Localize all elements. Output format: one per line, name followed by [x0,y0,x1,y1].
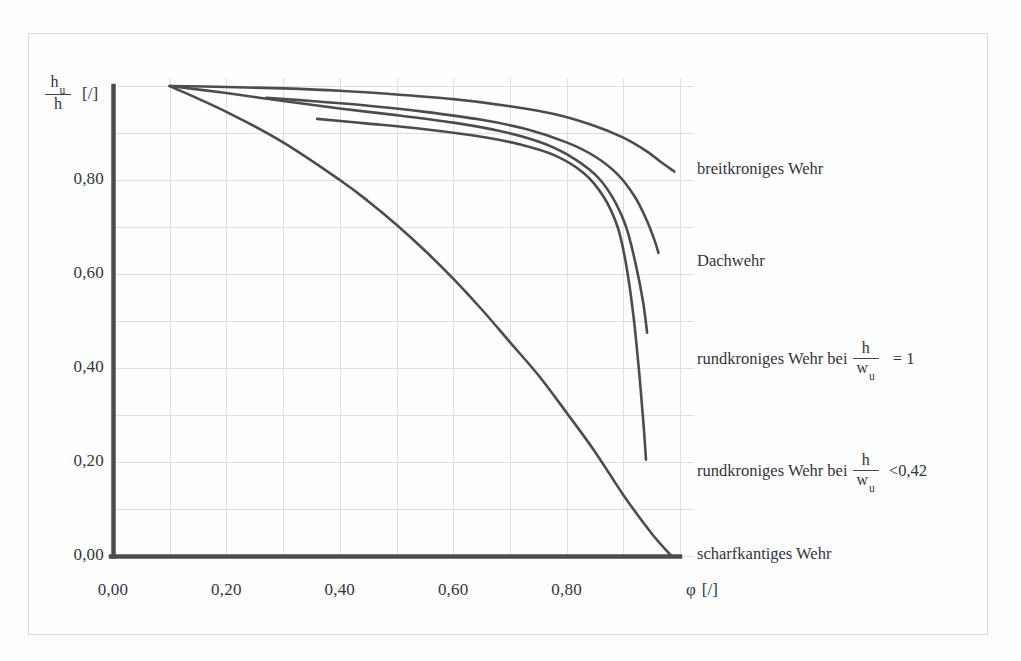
legend-fraction-h-wu: h wu [853,452,879,491]
x-axis-title: φ [/] [686,580,718,600]
legend-item-rundkroniges-wehr-1[interactable]: rundkroniges Wehr bei h wu = 1 [697,340,915,379]
chart-plot-area [0,0,1021,661]
legend-value: <0,42 [889,462,927,481]
y-axis-tick-label: 0,20 [44,451,104,471]
legend-item-breitkroniges-wehr[interactable]: breitkroniges Wehr [697,160,823,179]
fraction-denominator-subscript: u [868,370,875,382]
y-axis-title: hu h [/] [40,74,98,113]
y-axis-denominator: h [50,95,66,113]
legend-label-text: breitkroniges Wehr [697,160,823,179]
legend-label-text: rundkroniges Wehr bei [697,462,848,481]
x-axis-symbol: φ [686,580,696,600]
y-axis-tick-label: 0,80 [44,169,104,189]
x-axis-tick-label: 0,20 [191,580,261,600]
curve-rundkroniges-wehr-bei-h-w-u-1 [170,86,647,333]
fraction-denominator-subscript: u [868,482,875,494]
y-axis-tick-label: 0,60 [44,263,104,283]
figure-page: hu h [/] φ [/] 0,800,600,400,200,00 0,00… [0,0,1021,661]
x-axis-tick-label: 0,40 [305,580,375,600]
legend-label-text: Dachwehr [697,252,765,271]
fraction-numerator: h [858,452,874,470]
y-axis-unit: [/] [82,84,98,104]
x-axis-tick-label: 0,60 [418,580,488,600]
y-axis-tick-label: 0,40 [44,357,104,377]
legend-item-dachwehr[interactable]: Dachwehr [697,252,765,271]
legend-label-text: rundkroniges Wehr bei [697,350,848,369]
legend-value: = 1 [893,350,915,369]
y-axis-numerator-subscript: u [59,84,66,96]
fraction-denominator: wu [853,359,879,379]
y-axis-numerator: hu [47,74,70,94]
curve-rundkroniges-wehr-bei-h-w-u-0-42 [317,119,646,460]
horizontal-gridlines [113,87,694,557]
legend-item-scharfkantiges-wehr[interactable]: scharfkantiges Wehr [697,545,831,564]
legend-fraction-h-wu: h wu [853,340,879,379]
x-axis-tick-label: 0,00 [78,580,148,600]
legend-label-text: scharfkantiges Wehr [697,545,831,564]
y-axis-tick-label: 0,00 [44,545,104,565]
curve-dachwehr [266,98,658,253]
legend-item-rundkroniges-wehr-042[interactable]: rundkroniges Wehr bei h wu <0,42 [697,452,927,491]
fraction-numerator: h [858,340,874,358]
x-axis-tick-label: 0,80 [532,580,602,600]
vertical-gridlines [171,78,681,556]
y-axis-fraction: hu h [45,74,71,113]
fraction-denominator: wu [853,471,879,491]
x-axis-unit: [/] [702,580,718,600]
